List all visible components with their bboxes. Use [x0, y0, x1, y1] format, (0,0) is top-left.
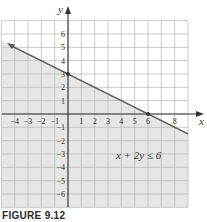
- svg-text:2: 2: [61, 83, 65, 92]
- svg-text:2: 2: [93, 117, 97, 126]
- svg-text:−3: −3: [56, 150, 65, 159]
- svg-text:4: 4: [61, 57, 65, 66]
- svg-text:−1: −1: [56, 123, 65, 132]
- svg-text:−6: −6: [56, 190, 65, 199]
- svg-text:−2: −2: [37, 117, 46, 126]
- svg-text:3: 3: [61, 70, 65, 79]
- y-axis-label: y: [57, 3, 63, 15]
- svg-text:1: 1: [79, 117, 83, 126]
- svg-text:8: 8: [173, 117, 177, 126]
- figure-caption: FIGURE 9.12: [2, 210, 65, 221]
- svg-text:−2: −2: [56, 137, 65, 146]
- svg-text:6: 6: [61, 30, 65, 39]
- svg-text:−4: −4: [10, 117, 19, 126]
- svg-text:3: 3: [106, 117, 110, 126]
- svg-text:−5: −5: [56, 177, 65, 186]
- svg-text:1: 1: [61, 97, 65, 106]
- svg-text:−3: −3: [24, 117, 33, 126]
- svg-text:5: 5: [133, 117, 137, 126]
- svg-text:6: 6: [146, 117, 150, 126]
- svg-text:4: 4: [119, 117, 123, 126]
- inequality-graph: −4−3−2−11234568654321−1−2−3−4−5−6 x + 2y…: [0, 0, 207, 208]
- inequality-annotation: x + 2y ≤ 6: [115, 149, 162, 161]
- svg-text:5: 5: [61, 43, 65, 52]
- x-axis-label: x: [198, 115, 204, 127]
- svg-text:−4: −4: [56, 163, 65, 172]
